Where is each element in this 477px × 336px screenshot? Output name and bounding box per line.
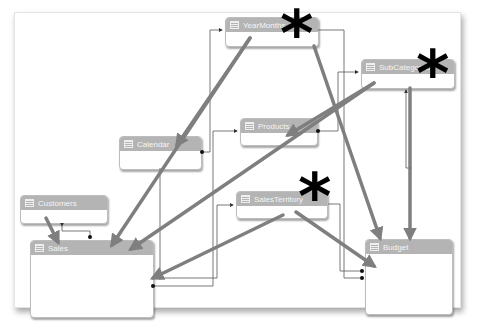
table-label: Budget: [383, 243, 408, 252]
table-label: Calendar: [137, 140, 169, 149]
table-calendar[interactable]: Calendar: [119, 136, 202, 170]
table-label: Sales: [48, 244, 68, 253]
table-icon: [124, 140, 133, 148]
asterisk-mark-icon: *: [298, 165, 331, 229]
asterisk-mark-icon: *: [416, 42, 449, 106]
table-header[interactable]: Customers: [21, 196, 107, 210]
table-header[interactable]: Budget: [366, 240, 452, 254]
table-icon: [230, 21, 239, 29]
table-header[interactable]: Sales: [31, 241, 153, 255]
table-label: SalesTerritory: [254, 195, 303, 204]
table-icon: [25, 199, 34, 207]
table-icon: [366, 63, 375, 71]
table-sales[interactable]: Sales: [30, 240, 154, 318]
table-header[interactable]: Products: [241, 119, 317, 133]
table-icon: [35, 244, 44, 252]
table-budget[interactable]: Budget: [365, 239, 453, 315]
table-customers[interactable]: Customers: [20, 195, 108, 224]
table-products[interactable]: Products: [240, 118, 318, 146]
table-icon: [245, 122, 254, 130]
table-icon: [370, 243, 379, 251]
table-label: Products: [258, 122, 290, 131]
asterisk-mark-icon: *: [280, 2, 313, 66]
table-icon: [241, 195, 250, 203]
table-header[interactable]: Calendar: [120, 137, 201, 151]
table-label: Customers: [38, 199, 77, 208]
